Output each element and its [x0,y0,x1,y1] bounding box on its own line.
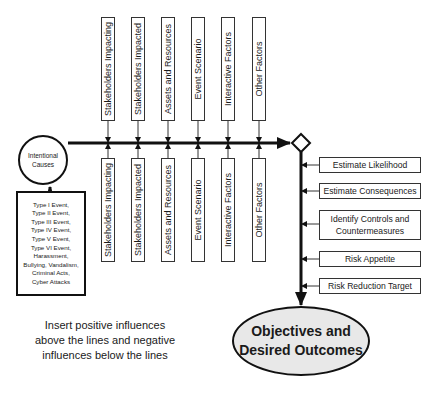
instruction-note: Insert positive influences above the lin… [30,318,180,363]
cause-type-item: Type III Event, [31,218,71,227]
cause-type-item: Harassment, [33,252,68,261]
cause-type-item: Type IV Event, [31,226,71,235]
negative-factor-stakeholders-impacting: Stakeholders Impacting [101,158,115,262]
step-risk-appetite: Risk Appetite [319,251,421,267]
positive-factor-event-scenario: Event Scenario [191,17,205,121]
step-risk-reduction-target: Risk Reduction Target [319,278,421,294]
cause-type-item: Criminal Acts, [32,269,70,278]
positive-factor-assets-resources: Assets and Resources [161,17,175,121]
cause-type-item: Type I Event, [33,201,69,210]
cause-type-item: Type VI Event, [31,244,71,253]
negative-factor-other-factors: Other Factors [252,158,266,262]
negative-factor-event-scenario: Event Scenario [191,158,205,262]
step-identify-controls: Identify Controls and Countermeasures [319,210,421,240]
positive-factor-interactive-factors: Interactive Factors [221,17,235,121]
cause-type-item: Bullying, Vandalism, [23,261,78,270]
cause-label-line2: Causes [28,160,58,169]
cause-types-box: Type I Event, Type II Event, Type III Ev… [16,191,86,296]
outcome-line2: Desired Outcomes [239,341,363,360]
negative-factor-stakeholders-impacted: Stakeholders Impacted [131,158,145,262]
step-estimate-consequences: Estimate Consequences [319,183,421,199]
positive-factor-stakeholders-impacting: Stakeholders Impacting [101,17,115,121]
positive-factor-other-factors: Other Factors [252,17,266,121]
objectives-outcome-node: Objectives and Desired Outcomes [232,306,370,376]
step-estimate-likelihood: Estimate Likelihood [319,157,421,173]
outcome-line1: Objectives and [239,322,363,341]
intentional-causes-node: Intentional Causes [18,135,68,185]
cause-label-line1: Intentional [28,151,58,160]
positive-factor-stakeholders-impacted: Stakeholders Impacted [131,17,145,121]
cause-type-item: Type II Event, [32,209,70,218]
cause-type-item: Type V Event, [32,235,71,244]
cause-type-item: Cyber Attacks [32,278,70,287]
negative-factor-assets-resources: Assets and Resources [161,158,175,262]
negative-factor-interactive-factors: Interactive Factors [221,158,235,262]
